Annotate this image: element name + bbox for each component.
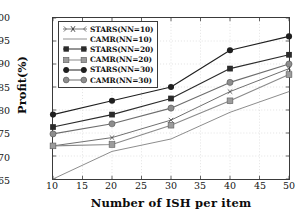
y-tick-label: 90 (0, 59, 10, 68)
x-tick-label: 20 (98, 181, 124, 191)
y-tick-label: 70 (0, 153, 10, 162)
legend-label: STARS(NN=20) (88, 45, 153, 54)
y-tick-label: 95 (0, 36, 10, 45)
legend-item: STARS(NN=30) (62, 65, 153, 75)
legend-label: CAMR(NN=10) (88, 35, 152, 44)
x-axis-title: Number of ISH per item (52, 196, 290, 210)
x-tick-label: 30 (158, 181, 184, 191)
legend-symbol-filled-circle (62, 65, 88, 75)
x-tick-label: 35 (187, 181, 213, 191)
y-tick-label: 65 (0, 176, 10, 185)
y-axis-title: Profit(%) (15, 42, 29, 128)
y-tick-label: 100 (0, 13, 10, 22)
legend-symbol-plain-line (62, 34, 88, 44)
legend-item: CAMR(NN=30) (62, 75, 153, 85)
chart-legend: STARS(NN=10) CAMR(NN=10) STARS(NN=20) CA… (58, 21, 158, 88)
y-tick-label: 75 (0, 129, 10, 138)
y-tick-label: 85 (0, 83, 10, 92)
legend-symbol-x-marker (62, 24, 88, 34)
legend-item: CAMR(NN=10) (62, 34, 153, 44)
x-tick-label: 15 (69, 181, 95, 191)
x-tick-label: 45 (247, 181, 273, 191)
x-tick-label: 25 (128, 181, 154, 191)
y-tick-label: 80 (0, 106, 10, 115)
legend-label: CAMR(NN=20) (88, 55, 152, 64)
legend-symbol-gray-square (62, 55, 88, 65)
legend-symbol-gray-circle (62, 75, 88, 85)
legend-label: STARS(NN=30) (88, 65, 153, 74)
legend-item: STARS(NN=20) (62, 44, 153, 54)
legend-label: STARS(NN=10) (88, 25, 153, 34)
chart-figure: 100 95 90 85 80 75 70 65 10 15 20 25 30 … (0, 0, 306, 220)
x-tick-label: 10 (39, 181, 65, 191)
legend-item: CAMR(NN=20) (62, 55, 153, 65)
legend-item: STARS(NN=10) (62, 24, 153, 34)
legend-label: CAMR(NN=30) (88, 76, 152, 85)
x-tick-label: 50 (276, 181, 302, 191)
legend-symbol-filled-square (62, 44, 88, 54)
x-tick-label: 40 (217, 181, 243, 191)
